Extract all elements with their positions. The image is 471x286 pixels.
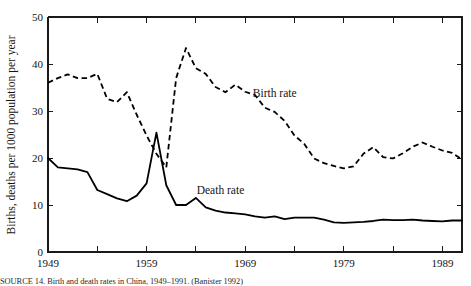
x-tick-label-1959: 1959: [136, 257, 159, 269]
x-axis-tick-labels: 1949 1959 1969 1979 1989: [37, 257, 454, 269]
y-axis-title: Births, deaths per 1000 population per y…: [5, 35, 18, 234]
x-tick-label-1989: 1989: [431, 257, 454, 269]
x-tick-label-1979: 1979: [333, 257, 356, 269]
y-tick-label-30: 30: [32, 105, 44, 117]
figure-caption: SOURCE 14. Birth and death rates in Chin…: [0, 277, 471, 286]
x-tick-label-1949: 1949: [37, 257, 60, 269]
y-tick-label-50: 50: [32, 11, 44, 23]
x-tick-label-1969: 1969: [234, 257, 257, 269]
birth-rate-line: [48, 48, 462, 168]
death-rate-label: Death rate: [197, 184, 245, 196]
death-rate-line: [48, 133, 462, 223]
x-axis-ticks: [48, 17, 442, 252]
y-axis-tick-labels: 0 10 20 30 40 50: [32, 11, 44, 258]
y-tick-label-20: 20: [32, 152, 44, 164]
y-tick-label-40: 40: [32, 58, 44, 70]
y-tick-label-10: 10: [32, 199, 44, 211]
birth-death-rate-line-chart: 0 10 20 30 40 50: [0, 0, 471, 286]
birth-rate-label: Birth rate: [253, 87, 297, 99]
figure-container: 0 10 20 30 40 50: [0, 0, 471, 286]
